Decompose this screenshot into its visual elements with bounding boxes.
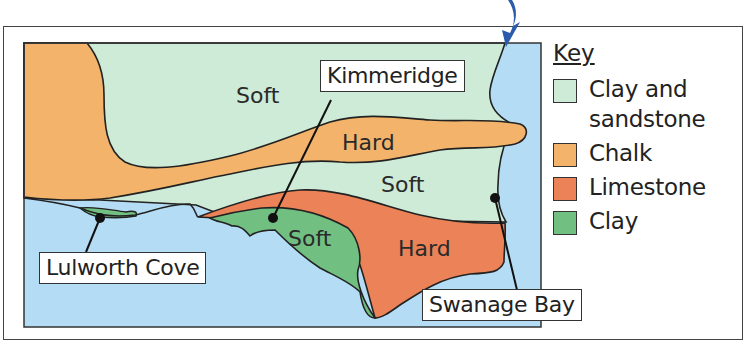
key-label-sandstone: sandstone (589, 104, 705, 134)
label-soft-middle: Soft (381, 172, 425, 197)
kimmeridge-dot (268, 213, 278, 223)
place-kimmeridge: Kimmeridge (320, 60, 465, 92)
label-hard-limestone: Hard (398, 236, 451, 261)
swatch-chalk (553, 143, 577, 167)
map-key: Key Clay and sandstone Chalk Limestone C… (553, 40, 706, 240)
key-label-limestone: Limestone (589, 172, 706, 202)
label-soft-clay: Soft (288, 226, 332, 251)
key-label-clay-and: Clay and (589, 74, 705, 104)
swatch-clay (553, 211, 577, 235)
arrow-icon (502, 0, 520, 47)
key-item-limestone: Limestone (553, 172, 706, 202)
swatch-clay-sandstone (553, 79, 577, 103)
key-item-clay: Clay (553, 206, 706, 236)
label-hard-chalk: Hard (342, 130, 395, 155)
key-item-clay-sandstone: Clay and sandstone (553, 74, 706, 134)
key-title: Key (553, 40, 706, 66)
key-label-clay: Clay (589, 206, 638, 236)
place-lulworth-cove: Lulworth Cove (39, 252, 206, 284)
place-swanage-bay: Swanage Bay (422, 289, 582, 321)
label-soft-north: Soft (236, 83, 280, 108)
lulworth-dot (95, 213, 105, 223)
swatch-limestone (553, 177, 577, 201)
key-item-chalk: Chalk (553, 138, 706, 168)
key-label-chalk: Chalk (589, 138, 652, 168)
swanage-dot (490, 193, 500, 203)
